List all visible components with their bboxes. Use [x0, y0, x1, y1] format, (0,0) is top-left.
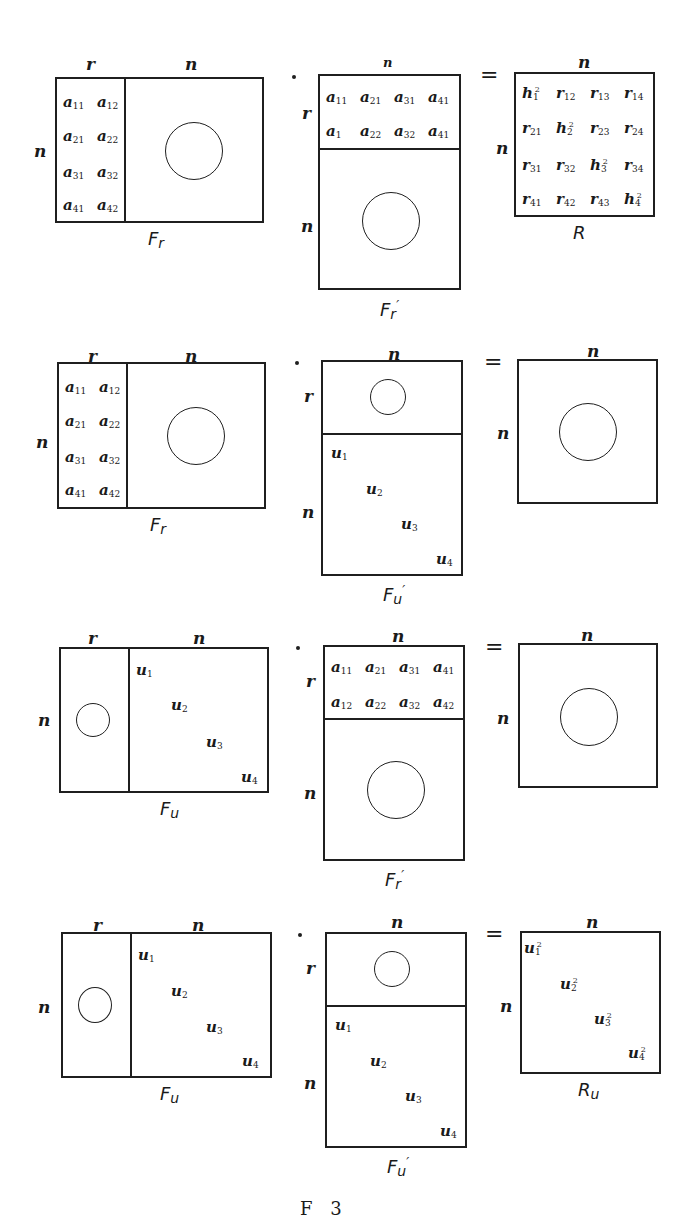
- element-symbol: a: [433, 658, 443, 676]
- matrix-element: u4: [242, 1054, 259, 1070]
- element-subscript: 21: [375, 666, 386, 676]
- element-symbol: h: [624, 190, 635, 208]
- element-symbol: a: [99, 481, 109, 499]
- matrix-element: r12: [556, 86, 575, 102]
- matrix-element: r14: [624, 86, 643, 102]
- matrix-element: a31: [394, 90, 415, 106]
- matrix-element: u4: [440, 1124, 457, 1140]
- element-subscript: 4: [447, 558, 453, 568]
- element-subscript: 32: [107, 171, 118, 181]
- element-superscript: 2: [535, 85, 540, 94]
- element-subscript: 1: [342, 452, 348, 462]
- matrix-element: a41: [65, 483, 86, 499]
- caption-subscript: u: [393, 591, 402, 607]
- dim-label-r: r: [306, 673, 315, 690]
- matrix-f-r: a11 a12 a21 a22 a31 a32 a41 a42: [55, 77, 264, 223]
- element: a12: [97, 95, 118, 111]
- element-symbol: a: [331, 658, 341, 676]
- matrix-element: a21: [65, 414, 86, 430]
- element-symbol: r: [522, 156, 530, 174]
- matrix-element: u2: [171, 698, 188, 714]
- dim-label-r: r: [88, 630, 97, 647]
- element-symbol: a: [65, 481, 75, 499]
- element-symbol: a: [63, 196, 73, 214]
- multiply-dot: [295, 361, 299, 365]
- caption-subscript: u: [170, 1090, 179, 1106]
- element-subscript: 41: [73, 204, 84, 214]
- matrix-f-u: u1 u2 u3 u4: [59, 647, 269, 793]
- element-subscript: 23: [598, 127, 609, 137]
- element: a41: [63, 198, 84, 214]
- element-subscript: 13: [598, 92, 609, 102]
- matrix-element: r31: [522, 158, 541, 174]
- element-symbol: u: [138, 946, 149, 964]
- element-symbol: h: [556, 119, 567, 137]
- matrix-element: a32: [399, 695, 420, 711]
- element-subscript: 22: [107, 135, 118, 145]
- element-symbol: a: [428, 122, 438, 140]
- matrix-element: u3: [405, 1089, 422, 1105]
- element-symbol: a: [326, 122, 336, 140]
- equals-sign: =: [484, 351, 502, 373]
- circle-symbol: [367, 761, 425, 819]
- dim-label-n: n: [391, 914, 403, 931]
- equals-sign: =: [485, 923, 503, 945]
- element-symbol: r: [522, 119, 530, 137]
- matrix-element: a41: [428, 124, 449, 140]
- element-symbol: a: [97, 93, 107, 111]
- partition-line: [124, 79, 126, 221]
- element-subscript: 14: [632, 92, 643, 102]
- dim-label-n: n: [36, 434, 48, 451]
- element-subscript: 42: [107, 204, 118, 214]
- matrix-element: a22: [99, 414, 120, 430]
- circle-symbol: [76, 703, 110, 737]
- matrix-f-r: a11 a12 a21 a22 a31 a32 a41 a42: [57, 362, 266, 509]
- element-subscript: 22: [109, 420, 120, 430]
- element-subscript: 11: [75, 386, 86, 396]
- element-symbol: a: [99, 412, 109, 430]
- matrix-element: u1: [331, 446, 348, 462]
- matrix-element: u32: [594, 1012, 612, 1028]
- element-symbol: u: [171, 696, 182, 714]
- element-symbol: u: [242, 1052, 253, 1070]
- matrix-element: a21: [365, 660, 386, 676]
- element-subscript: 21: [73, 135, 84, 145]
- dim-label-n: n: [38, 999, 50, 1016]
- caption-subscript: u: [170, 805, 179, 821]
- caption-symbol: F: [385, 869, 395, 890]
- caption-symbol: F: [380, 299, 390, 320]
- dim-label-n: n: [302, 504, 314, 521]
- element-symbol: r: [624, 156, 632, 174]
- element-subscript: 41: [530, 198, 541, 208]
- matrix-element: u22: [560, 977, 578, 993]
- matrix-element: a32: [394, 124, 415, 140]
- element-subscript: 1: [147, 669, 153, 679]
- element-symbol: r: [624, 119, 632, 137]
- circle-symbol: [559, 403, 617, 461]
- matrix-r: h12 r12 r13 r14 r21 h22 r23 r24 r31 r32 …: [514, 72, 655, 217]
- element-symbol: u: [436, 550, 447, 568]
- dim-label-n: n: [185, 56, 197, 73]
- element-symbol: u: [405, 1087, 416, 1105]
- element-symbol: a: [63, 93, 73, 111]
- element-symbol: u: [241, 768, 252, 786]
- element-subscript: 24: [632, 127, 643, 137]
- caption-f-u-transpose: Fu′: [383, 583, 405, 606]
- caption-symbol: R: [578, 1079, 591, 1100]
- element-symbol: u: [331, 444, 342, 462]
- caption-symbol: F: [148, 228, 158, 249]
- partition-line: [325, 718, 463, 720]
- element-symbol: r: [556, 156, 564, 174]
- matrix-element: a22: [360, 124, 381, 140]
- element: a11: [63, 95, 84, 111]
- matrix-element: h12: [522, 86, 540, 102]
- matrix-element: a31: [65, 450, 86, 466]
- partition-line: [128, 649, 130, 791]
- element-subscript: 12: [564, 92, 575, 102]
- partition-line: [320, 148, 459, 150]
- element-symbol: a: [394, 88, 404, 106]
- caption-subscript: r: [158, 235, 164, 251]
- matrix-element: r42: [556, 192, 575, 208]
- element-symbol: a: [433, 693, 443, 711]
- multiply-dot: [292, 75, 296, 79]
